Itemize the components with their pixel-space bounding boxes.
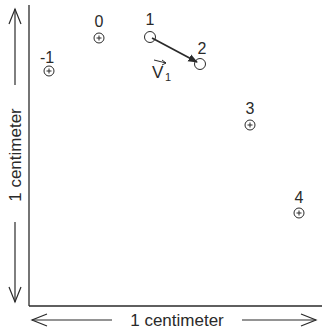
- point-minus-1: -1: [40, 49, 54, 76]
- horizontal-scale-label: 1 centimeter: [130, 311, 224, 330]
- point-2: 2: [195, 40, 207, 70]
- point-4: 4: [294, 189, 304, 218]
- svg-text:V: V: [152, 63, 164, 82]
- svg-text:2: 2: [198, 40, 207, 57]
- point-3: 3: [245, 100, 255, 130]
- svg-text:-1: -1: [40, 49, 54, 66]
- svg-text:1: 1: [165, 71, 171, 83]
- vector-v1-arrow: [152, 38, 197, 62]
- svg-text:3: 3: [246, 100, 255, 117]
- svg-text:0: 0: [95, 13, 104, 30]
- point-0: 0: [94, 13, 104, 43]
- position-diagram: 1 centimeter 1 centimeter V 1 -1 0 1 2: [0, 0, 322, 331]
- svg-text:1: 1: [146, 11, 155, 28]
- svg-text:4: 4: [295, 189, 304, 206]
- vector-v1-label: V 1: [152, 60, 171, 83]
- vertical-scale-label: 1 centimeter: [6, 108, 25, 202]
- point-1: 1: [145, 11, 156, 43]
